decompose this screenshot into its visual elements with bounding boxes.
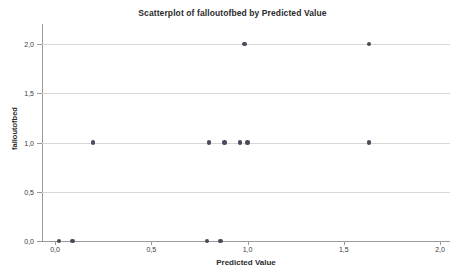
- data-point: [91, 140, 95, 144]
- x-axis-line: [42, 241, 450, 242]
- x-axis-tick-label: 0,5: [146, 246, 156, 253]
- y-axis-tick: [37, 93, 42, 94]
- x-axis-tick-label: 1,0: [243, 246, 253, 253]
- x-axis-tick: [55, 241, 56, 245]
- x-axis-tick: [344, 241, 345, 245]
- y-axis-tick: [37, 143, 42, 144]
- data-point: [70, 239, 74, 243]
- y-axis-title: falloutofbed: [10, 79, 19, 179]
- x-axis-tick: [440, 241, 441, 245]
- x-axis-tick: [151, 241, 152, 245]
- gridline-horizontal: [42, 192, 450, 193]
- y-axis-tick-label: 1,0: [24, 139, 34, 146]
- x-axis-tick-label: 1,5: [339, 246, 349, 253]
- data-point: [245, 140, 249, 144]
- plot-area: [42, 24, 450, 241]
- gridline-horizontal: [42, 93, 450, 94]
- y-axis-tick-label: 0,5: [24, 188, 34, 195]
- y-axis-tick: [37, 44, 42, 45]
- y-axis-tick: [37, 192, 42, 193]
- data-point: [238, 140, 242, 144]
- chart-title: Scatterplot of falloutofbed by Predicted…: [0, 8, 465, 18]
- x-axis-tick: [248, 241, 249, 245]
- scatterplot-chart: Scatterplot of falloutofbed by Predicted…: [0, 0, 465, 280]
- x-axis-tick-label: 2,0: [435, 246, 445, 253]
- data-point: [57, 239, 61, 243]
- y-axis-tick-label: 2,0: [24, 41, 34, 48]
- data-point: [222, 140, 226, 144]
- data-point: [367, 42, 371, 46]
- data-point: [242, 42, 246, 46]
- y-axis-tick-label: 0,0: [24, 238, 34, 245]
- y-axis-tick-label: 1,5: [24, 90, 34, 97]
- x-axis-tick-label: 0,0: [50, 246, 60, 253]
- x-axis-title: Predicted Value: [42, 258, 450, 267]
- y-axis-tick: [37, 241, 42, 242]
- data-point: [205, 239, 209, 243]
- data-point: [207, 140, 211, 144]
- data-point: [218, 239, 222, 243]
- data-point: [367, 140, 371, 144]
